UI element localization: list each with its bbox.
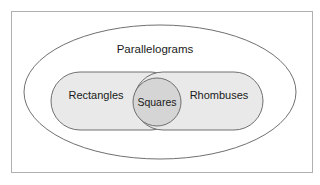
set-label-rhombuses: Rhombuses: [190, 89, 249, 101]
diagram-canvas: Parallelograms Rectangles Rhombuses Squa…: [0, 0, 320, 185]
set-label-parallelograms: Parallelograms: [117, 43, 194, 55]
set-label-rectangles: Rectangles: [68, 89, 124, 101]
venn-diagram-svg: Parallelograms Rectangles Rhombuses Squa…: [0, 0, 320, 185]
set-label-squares: Squares: [137, 96, 176, 108]
